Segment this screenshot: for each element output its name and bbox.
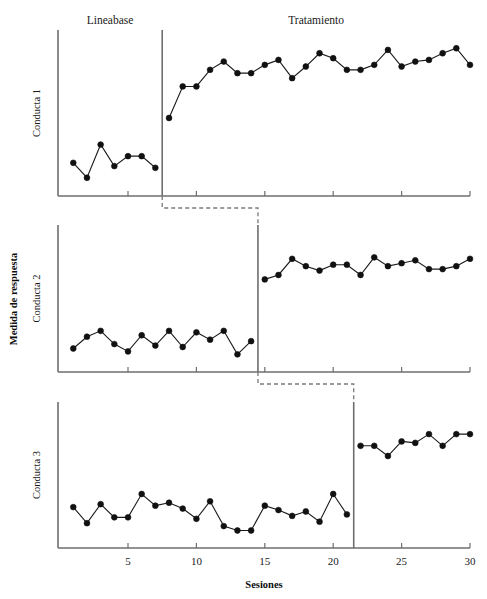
data-point bbox=[317, 268, 323, 274]
phase-header-treatment: Tratamiento bbox=[288, 14, 344, 26]
multiple-baseline-figure: Conducta 1Conducta 251015202530Conducta … bbox=[0, 0, 487, 599]
x-axis-title: Sesiones bbox=[245, 579, 282, 590]
panel-2 bbox=[58, 225, 473, 372]
data-point bbox=[70, 504, 76, 510]
data-point bbox=[235, 351, 241, 357]
data-point bbox=[84, 520, 90, 526]
data-point bbox=[303, 263, 309, 269]
data-point bbox=[412, 440, 418, 446]
data-point bbox=[194, 516, 200, 522]
data-point bbox=[152, 165, 158, 171]
data-point bbox=[399, 260, 405, 266]
data-point bbox=[180, 506, 186, 512]
data-point bbox=[385, 47, 391, 53]
data-point bbox=[453, 45, 459, 51]
data-point bbox=[453, 431, 459, 437]
data-point bbox=[248, 338, 254, 344]
data-point bbox=[125, 514, 131, 520]
x-tick-label-25: 25 bbox=[396, 555, 408, 567]
data-point bbox=[180, 84, 186, 90]
data-point bbox=[166, 500, 172, 506]
data-point bbox=[399, 64, 405, 70]
data-point bbox=[371, 443, 377, 449]
x-tick-label-5: 5 bbox=[125, 555, 131, 567]
data-point bbox=[262, 276, 268, 282]
data-point bbox=[289, 256, 295, 262]
data-point bbox=[262, 62, 268, 68]
data-point bbox=[207, 67, 213, 73]
data-point bbox=[125, 153, 131, 159]
data-point bbox=[440, 266, 446, 272]
data-point bbox=[371, 254, 377, 260]
data-point bbox=[84, 175, 90, 181]
data-point bbox=[289, 75, 295, 81]
data-point bbox=[358, 67, 364, 73]
data-point bbox=[467, 256, 473, 262]
panel-1-ylabel: Conducta 1 bbox=[31, 89, 42, 137]
data-point bbox=[385, 263, 391, 269]
data-point bbox=[426, 266, 432, 272]
data-point bbox=[111, 341, 117, 347]
data-point bbox=[426, 57, 432, 63]
data-point bbox=[371, 62, 377, 68]
data-point bbox=[330, 262, 336, 268]
data-point bbox=[385, 453, 391, 459]
panel-1-lineabase-line bbox=[73, 145, 155, 178]
x-tick-label-10: 10 bbox=[191, 555, 203, 567]
data-point bbox=[152, 343, 158, 349]
data-point bbox=[111, 514, 117, 520]
data-point bbox=[262, 503, 268, 509]
data-point bbox=[317, 50, 323, 56]
data-point bbox=[276, 272, 282, 278]
data-point bbox=[467, 431, 473, 437]
panel-1 bbox=[58, 30, 473, 196]
data-point bbox=[111, 163, 117, 169]
data-point bbox=[248, 70, 254, 76]
x-tick-label-20: 20 bbox=[328, 555, 340, 567]
data-point bbox=[70, 346, 76, 352]
data-point bbox=[344, 512, 350, 518]
phase-connector-1 bbox=[162, 196, 258, 225]
panel-2-tratamiento-line bbox=[265, 257, 470, 279]
data-point bbox=[166, 328, 172, 334]
data-point bbox=[426, 431, 432, 437]
data-point bbox=[317, 519, 323, 525]
data-point bbox=[98, 328, 104, 334]
data-point bbox=[139, 153, 145, 159]
data-point bbox=[276, 57, 282, 63]
data-point bbox=[139, 491, 145, 497]
data-point bbox=[248, 528, 254, 534]
data-point bbox=[180, 344, 186, 350]
axis-labels-group: Conducta 1Conducta 251015202530Conducta … bbox=[8, 89, 476, 590]
data-point bbox=[221, 523, 227, 529]
panel-2-ylabel: Conducta 2 bbox=[31, 274, 42, 322]
data-point bbox=[235, 528, 241, 534]
phase-connector-2 bbox=[258, 372, 354, 402]
x-tick-label-30: 30 bbox=[465, 555, 477, 567]
data-point bbox=[467, 62, 473, 68]
panel-3 bbox=[58, 402, 473, 548]
data-point bbox=[330, 491, 336, 497]
data-point bbox=[207, 337, 213, 343]
data-point bbox=[399, 439, 405, 445]
data-point bbox=[194, 84, 200, 90]
data-point bbox=[98, 501, 104, 507]
data-point bbox=[412, 59, 418, 65]
phase-headers-group: LineabaseTratamiento bbox=[87, 14, 344, 26]
data-point bbox=[344, 262, 350, 268]
data-point bbox=[235, 70, 241, 76]
data-point bbox=[358, 272, 364, 278]
panel-2-lineabase-line bbox=[73, 331, 251, 355]
data-point bbox=[289, 513, 295, 519]
data-point bbox=[152, 503, 158, 509]
chart-canvas: Conducta 1Conducta 251015202530Conducta … bbox=[0, 0, 487, 599]
panel-1-tratamiento-line bbox=[169, 48, 470, 118]
data-point bbox=[125, 349, 131, 355]
data-point bbox=[276, 507, 282, 513]
data-point bbox=[303, 509, 309, 515]
data-point bbox=[303, 64, 309, 70]
data-point bbox=[453, 263, 459, 269]
data-point bbox=[84, 334, 90, 340]
data-point bbox=[344, 67, 350, 73]
phase-header-baseline: Lineabase bbox=[87, 14, 134, 26]
